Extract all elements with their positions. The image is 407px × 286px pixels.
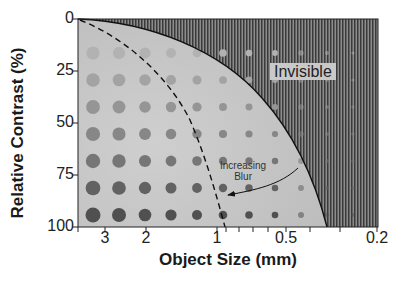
- invisible-label: Invisible: [270, 63, 336, 80]
- test-dot: [351, 51, 354, 54]
- test-dot: [325, 132, 329, 136]
- test-dot: [272, 131, 278, 137]
- test-dot: [166, 75, 176, 85]
- x-tick-label: 3: [101, 229, 110, 247]
- test-dot: [351, 159, 354, 162]
- y-tick-label: 100: [47, 217, 74, 235]
- test-dot: [139, 74, 150, 85]
- test-dot: [325, 105, 329, 109]
- test-dot: [113, 101, 126, 114]
- test-dot: [192, 102, 201, 111]
- test-dot: [245, 130, 252, 137]
- test-dot: [298, 212, 304, 218]
- x-tick-label: 0.2: [366, 229, 388, 247]
- test-dot: [139, 155, 151, 167]
- y-tick-label: 75: [56, 165, 74, 183]
- test-dot: [86, 46, 99, 59]
- test-dot: [351, 105, 354, 108]
- test-dot: [86, 154, 100, 168]
- test-dot: [245, 211, 253, 219]
- test-dot: [86, 208, 101, 223]
- test-dot: [325, 186, 329, 190]
- test-dot: [325, 213, 329, 217]
- test-dot: [351, 213, 355, 217]
- test-dot: [219, 76, 227, 84]
- test-dot: [192, 210, 202, 220]
- test-dot: [272, 185, 278, 191]
- test-dot: [192, 183, 202, 193]
- test-dot: [86, 100, 100, 114]
- test-dot: [139, 182, 151, 194]
- test-dot: [272, 50, 278, 56]
- test-dot: [112, 208, 126, 222]
- test-dot: [166, 48, 176, 58]
- x-tick-label: 0.5: [275, 229, 297, 247]
- increasing-blur-label: Increasing Blur: [220, 160, 266, 182]
- test-dot: [246, 104, 253, 111]
- test-dot: [298, 185, 304, 191]
- test-dot: [193, 76, 202, 85]
- y-axis-title: Relative Contrast (%): [8, 23, 28, 243]
- test-dot: [113, 47, 125, 59]
- test-dot: [139, 128, 151, 140]
- y-tick-label: 25: [56, 61, 74, 79]
- test-dot: [298, 50, 303, 55]
- test-dot: [166, 102, 176, 112]
- test-dot: [272, 212, 279, 219]
- test-dot: [298, 131, 304, 137]
- test-dot: [139, 101, 151, 113]
- test-dot: [165, 209, 176, 220]
- test-dot: [86, 181, 101, 196]
- test-dot: [272, 104, 278, 110]
- blur-label-line2: Blur: [220, 171, 266, 182]
- test-dot: [86, 73, 100, 87]
- test-dot: [113, 74, 126, 87]
- test-dot: [112, 154, 125, 167]
- y-tick-label: 0: [65, 9, 74, 27]
- test-dot: [139, 209, 152, 222]
- test-dot: [351, 132, 354, 135]
- test-dot: [272, 158, 278, 164]
- x-axis-title: Object Size (mm): [78, 250, 378, 270]
- test-dot: [219, 130, 227, 138]
- contrast-detail-chart: [0, 0, 407, 286]
- x-tick-label: 2: [142, 229, 151, 247]
- test-dot: [166, 129, 177, 140]
- test-dot: [219, 103, 227, 111]
- test-dot: [86, 127, 100, 141]
- test-dot: [219, 184, 227, 192]
- test-dot: [192, 156, 202, 166]
- test-dot: [166, 183, 177, 194]
- test-dot: [351, 186, 355, 190]
- test-dot: [112, 181, 126, 195]
- y-tick-label: 50: [56, 113, 74, 131]
- test-dot: [325, 159, 329, 163]
- test-dot: [166, 156, 177, 167]
- test-dot: [139, 47, 150, 58]
- x-tick-label: 1: [213, 229, 222, 247]
- test-dot: [246, 50, 253, 57]
- test-dot: [325, 51, 329, 55]
- test-dot: [351, 78, 354, 81]
- blur-label-line1: Increasing: [220, 160, 266, 171]
- test-dot: [112, 127, 125, 140]
- test-dot: [219, 49, 227, 57]
- test-dot: [298, 104, 304, 110]
